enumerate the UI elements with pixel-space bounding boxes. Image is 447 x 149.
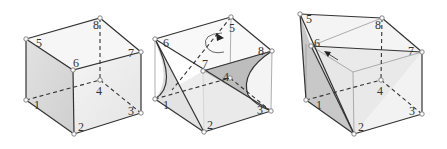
vertex-1 xyxy=(24,98,28,102)
label-4: 4 xyxy=(377,84,383,98)
vertex-2 xyxy=(72,132,76,136)
vertex-6 xyxy=(153,37,157,41)
label-6: 6 xyxy=(314,36,320,50)
label-1: 1 xyxy=(163,98,169,112)
vertex-5 xyxy=(229,15,233,19)
label-8: 8 xyxy=(93,18,99,32)
label-2: 2 xyxy=(358,120,364,134)
label-6: 6 xyxy=(163,36,169,50)
label-1: 1 xyxy=(34,98,40,112)
label-3: 3 xyxy=(409,104,415,118)
figure-sheared-cube: 5 8 7 6 1 4 3 2 xyxy=(298,12,424,136)
label-5: 5 xyxy=(306,12,312,26)
label-6: 6 xyxy=(73,56,79,70)
vertex-3 xyxy=(139,111,143,115)
label-2: 2 xyxy=(207,118,213,132)
vertex-4 xyxy=(98,78,102,82)
label-5: 5 xyxy=(36,36,42,50)
label-8: 8 xyxy=(375,18,381,32)
vertex-3 xyxy=(420,112,424,116)
label-4: 4 xyxy=(223,70,229,84)
label-3: 3 xyxy=(128,104,134,118)
vertex-8 xyxy=(270,49,274,53)
vertex-3 xyxy=(269,109,273,113)
vertex-7 xyxy=(420,50,424,54)
vertex-1 xyxy=(304,98,308,102)
label-5: 5 xyxy=(229,21,235,35)
vertex-1 xyxy=(153,97,157,101)
vertex-6 xyxy=(309,44,313,48)
vertex-2 xyxy=(352,132,356,136)
vertex-5 xyxy=(24,37,28,41)
vertex-7 xyxy=(139,50,143,54)
label-4: 4 xyxy=(96,84,102,98)
label-7: 7 xyxy=(128,46,134,60)
label-1: 1 xyxy=(316,98,322,112)
label-2: 2 xyxy=(78,120,84,134)
label-7: 7 xyxy=(202,57,208,71)
diagram-canvas: 5 8 7 6 1 4 3 2 xyxy=(0,0,447,149)
vertex-5 xyxy=(298,12,302,16)
label-7: 7 xyxy=(408,44,414,58)
label-3: 3 xyxy=(257,103,263,117)
vertex-2 xyxy=(202,130,206,134)
label-8: 8 xyxy=(258,44,264,58)
figure-twisted-cube: 6 5 8 7 4 1 3 2 xyxy=(153,15,274,134)
vertex-4 xyxy=(379,78,383,82)
figure-cube: 5 8 7 6 1 4 3 2 xyxy=(24,16,143,136)
